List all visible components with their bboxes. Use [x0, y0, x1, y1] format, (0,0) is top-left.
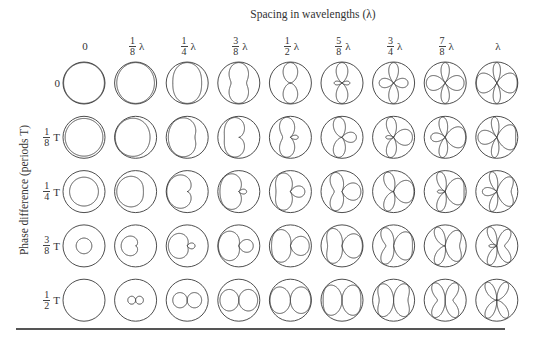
radiation-pattern	[224, 118, 244, 157]
pattern-cell	[269, 62, 311, 104]
pattern-cell	[218, 116, 260, 158]
radiation-pattern	[173, 293, 202, 308]
radiation-pattern	[167, 175, 191, 208]
pattern-cell	[476, 116, 518, 158]
pattern-cell	[63, 116, 105, 158]
radiation-pattern	[327, 228, 363, 263]
radiation-pattern	[229, 63, 248, 104]
bottom-rule	[16, 328, 505, 330]
radiation-pattern	[478, 117, 516, 158]
pattern-cell	[166, 279, 208, 321]
radiation-pattern	[270, 287, 311, 313]
pattern-cell	[373, 171, 415, 213]
reference-circle	[373, 225, 415, 267]
radiation-pattern	[330, 173, 361, 211]
antenna-pattern-diagram: Spacing in wavelengths (λ) Phase differe…	[0, 0, 536, 341]
radiation-pattern	[437, 172, 464, 211]
radiation-pattern	[432, 283, 459, 318]
radiation-pattern	[76, 238, 92, 254]
pattern-cell	[115, 171, 157, 213]
pattern-cell	[269, 171, 311, 213]
radiation-pattern	[168, 233, 195, 258]
pattern-cell	[424, 116, 466, 158]
pattern-cell	[115, 116, 157, 158]
pattern-cell	[63, 62, 105, 104]
reference-circle	[63, 116, 105, 158]
radiation-pattern	[64, 63, 105, 104]
pattern-cell	[166, 62, 208, 104]
radiation-pattern	[128, 296, 144, 304]
radiation-pattern	[434, 227, 461, 264]
pattern-cell	[115, 225, 157, 267]
radiation-pattern	[168, 118, 195, 157]
reference-circle	[269, 116, 311, 158]
radiation-pattern	[378, 284, 410, 317]
reference-circle	[218, 62, 260, 104]
radiation-pattern	[173, 63, 202, 104]
pattern-cell	[269, 225, 311, 267]
pattern-cell	[476, 225, 518, 267]
pattern-cell	[476, 171, 518, 213]
pattern-cell	[424, 171, 466, 213]
radiation-pattern	[323, 285, 361, 315]
pattern-cell	[218, 279, 260, 321]
pattern-cell	[63, 171, 105, 213]
radiation-pattern	[476, 63, 517, 104]
reference-circle	[476, 225, 518, 267]
pattern-cell	[321, 225, 363, 267]
radiation-pattern	[381, 228, 413, 264]
radiation-pattern	[333, 117, 356, 157]
pattern-cell	[373, 279, 415, 321]
pattern-cell	[115, 62, 157, 104]
radiation-pattern	[276, 173, 305, 210]
radiation-pattern	[482, 172, 513, 212]
pattern-cell	[373, 62, 415, 104]
radiation-pattern	[117, 63, 155, 104]
radiation-pattern	[485, 282, 509, 318]
pattern-cell	[63, 225, 105, 267]
reference-circle	[476, 116, 518, 158]
pattern-cell	[321, 279, 363, 321]
pattern-cell	[166, 171, 208, 213]
reference-circle	[166, 116, 208, 158]
reference-circle	[424, 62, 466, 104]
radiation-pattern	[65, 118, 103, 156]
radiation-pattern	[379, 63, 408, 104]
radiation-pattern	[283, 63, 298, 104]
pattern-cell	[476, 279, 518, 321]
pattern-cell	[373, 116, 415, 158]
pattern-cell	[321, 171, 363, 213]
radiation-pattern	[280, 117, 299, 157]
radiation-pattern	[220, 289, 258, 311]
pattern-cell	[218, 171, 260, 213]
radiation-pattern	[218, 231, 253, 260]
pattern-cell	[218, 62, 260, 104]
pattern-cell	[218, 225, 260, 267]
pattern-cell	[424, 279, 466, 321]
radiation-pattern	[115, 118, 150, 156]
radiation-pattern	[334, 63, 350, 104]
reference-circle	[63, 225, 105, 267]
pattern-cell	[373, 225, 415, 267]
pattern-grid	[0, 0, 536, 341]
radiation-pattern	[117, 176, 144, 207]
reference-circle	[63, 279, 105, 321]
radiation-pattern	[272, 230, 310, 263]
pattern-cell	[115, 279, 157, 321]
radiation-pattern	[487, 227, 511, 265]
pattern-cell	[321, 62, 363, 104]
radiation-pattern	[386, 117, 413, 157]
reference-circle	[115, 62, 157, 104]
pattern-cell	[424, 225, 466, 267]
pattern-cell	[269, 279, 311, 321]
pattern-cell	[269, 116, 311, 158]
pattern-cell	[476, 62, 518, 104]
pattern-cell	[424, 62, 466, 104]
radiation-pattern	[70, 177, 99, 206]
reference-circle	[321, 62, 363, 104]
radiation-pattern	[220, 174, 247, 210]
pattern-cell	[166, 116, 208, 158]
pattern-cell	[321, 116, 363, 158]
radiation-pattern	[426, 63, 464, 104]
pattern-cell	[63, 279, 105, 321]
